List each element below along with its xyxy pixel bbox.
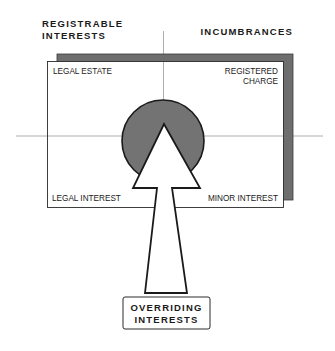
label-legal-interest: LEGAL INTEREST — [52, 194, 121, 203]
header-registrable-line1: REGISTRABLE — [42, 18, 123, 29]
label-legal-estate: LEGAL ESTATE — [53, 67, 113, 76]
header-incumbrances: INCUMBRANCES — [200, 26, 293, 37]
box-label-line1: OVERRIDING — [130, 302, 202, 313]
overriding-interests-diagram: REGISTRABLE INTERESTS INCUMBRANCES LEGAL… — [0, 0, 335, 351]
box-label-line2: INTERESTS — [134, 314, 198, 325]
label-minor-interest: MINOR INTEREST — [208, 194, 278, 203]
label-registered-charge-line1: REGISTERED — [225, 67, 278, 76]
header-registrable-line2: INTERESTS — [42, 30, 106, 41]
label-registered-charge-line2: CHARGE — [243, 77, 279, 86]
